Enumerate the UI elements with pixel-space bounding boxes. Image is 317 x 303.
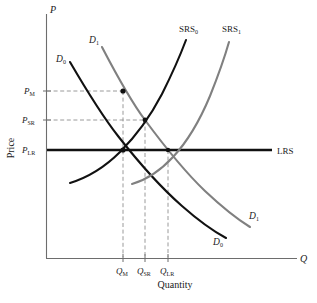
- label-price-m: PM: [23, 86, 36, 97]
- label-d1-top: D1: [88, 35, 99, 46]
- chart-canvas: P Q Price Quantity PM PSR PLR QM QSR QLR…: [0, 0, 317, 303]
- economics-chart: P Q Price Quantity PM PSR PLR QM QSR QLR…: [0, 0, 317, 303]
- x-axis-symbol: Q: [300, 253, 308, 264]
- label-d1-bottom: D1: [248, 211, 259, 222]
- label-price-sr: PSR: [21, 115, 35, 126]
- curve-labels: D0 D1 SRS0 SRS1 D1 D0 LRS: [55, 24, 294, 248]
- label-d0-top-sub: 0: [63, 59, 66, 65]
- label-qty-sr-sub: SR: [144, 271, 151, 277]
- label-srs0-sub: 0: [195, 29, 198, 35]
- label-qty-sr: QSR: [137, 266, 151, 277]
- y-axis-title: Price: [5, 137, 16, 158]
- curve-srs1: [132, 42, 229, 184]
- label-srs1-sub: 1: [238, 29, 241, 35]
- label-d1-top-sub: 1: [96, 40, 99, 46]
- x-axis-title: Quantity: [158, 279, 193, 290]
- label-d1-bottom-sub: 1: [256, 216, 259, 222]
- label-d0-bottom-text: D: [212, 237, 220, 247]
- label-srs1-text: SRS: [222, 24, 238, 34]
- label-price-lr: PLR: [21, 145, 35, 156]
- label-d1-top-text: D: [88, 35, 96, 45]
- initial-equilibrium-dot: [120, 147, 125, 152]
- short-run-equilibrium-dot: [143, 118, 148, 123]
- label-srs0: SRS0: [179, 24, 198, 35]
- label-price-sr-sub: SR: [28, 120, 35, 126]
- label-lrs: LRS: [277, 146, 294, 156]
- label-d0-bottom: D0: [212, 237, 223, 248]
- label-d0-top-text: D: [55, 54, 63, 64]
- label-qty-m: QM: [116, 266, 129, 277]
- axes: [46, 14, 297, 259]
- momentary-equilibrium-dot: [120, 88, 125, 93]
- label-srs0-text: SRS: [179, 24, 195, 34]
- label-qty-lr: QLR: [160, 266, 174, 277]
- y-axis-symbol: P: [49, 4, 56, 15]
- label-srs1: SRS1: [222, 24, 241, 35]
- label-d0-bottom-sub: 0: [220, 242, 223, 248]
- label-price-m-sub: M: [30, 91, 36, 97]
- label-qty-lr-sub: LR: [167, 271, 175, 277]
- x-tick-labels: QM QSR QLR: [116, 266, 174, 277]
- y-tick-labels: PM PSR PLR: [21, 86, 36, 156]
- label-price-lr-sub: LR: [28, 150, 36, 156]
- label-qty-m-sub: M: [123, 271, 129, 277]
- label-d1-bottom-text: D: [248, 211, 256, 221]
- long-run-equilibrium-dot: [166, 148, 170, 152]
- label-d0-top: D0: [55, 54, 66, 65]
